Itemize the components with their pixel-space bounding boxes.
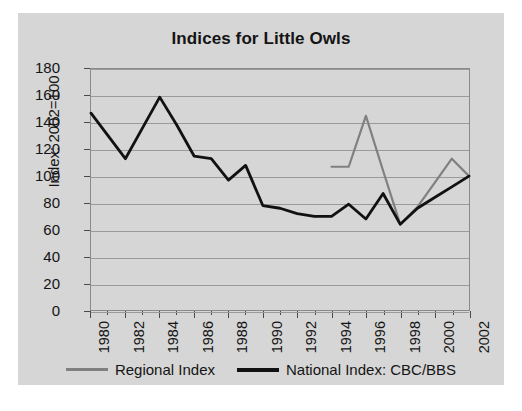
x-tick-label: 2000 bbox=[441, 321, 457, 353]
chart-figure: Indices for Little Owls Index: 2002=100 … bbox=[18, 13, 504, 385]
y-tick-label: 140 bbox=[0, 113, 60, 130]
legend-entry-national: National Index: CBC/BBS bbox=[237, 361, 456, 378]
y-tick-label: 20 bbox=[0, 275, 60, 292]
y-tick-label: 120 bbox=[0, 140, 60, 157]
legend-entry-regional: Regional Index bbox=[66, 361, 215, 378]
gridline bbox=[91, 312, 469, 313]
y-tick-label: 40 bbox=[0, 248, 60, 265]
x-tick-label: 1998 bbox=[407, 321, 423, 353]
x-tick-mark-major bbox=[470, 311, 471, 318]
x-tick-label: 1990 bbox=[269, 321, 285, 353]
plot-area bbox=[90, 68, 470, 311]
chart-legend: Regional Index National Index: CBC/BBS bbox=[18, 361, 504, 378]
y-tick-label: 180 bbox=[0, 59, 60, 76]
legend-swatch-regional bbox=[66, 368, 108, 371]
x-tick-label: 1986 bbox=[200, 321, 216, 353]
series-line-national-index-cbc-bbs bbox=[91, 97, 469, 224]
y-tick-label: 160 bbox=[0, 86, 60, 103]
x-tick-label: 1988 bbox=[234, 321, 250, 353]
x-tick-label: 2002 bbox=[476, 321, 492, 353]
x-tick-label: 1994 bbox=[338, 321, 354, 353]
x-tick-label: 1984 bbox=[165, 321, 181, 353]
y-tick-label: 60 bbox=[0, 221, 60, 238]
x-tick-label: 1996 bbox=[372, 321, 388, 353]
legend-label-regional: Regional Index bbox=[115, 361, 215, 378]
x-tick-label: 1980 bbox=[96, 321, 112, 353]
x-tick-label: 1982 bbox=[131, 321, 147, 353]
series-lines bbox=[91, 69, 469, 310]
legend-swatch-national bbox=[237, 368, 279, 372]
y-tick-label: 100 bbox=[0, 167, 60, 184]
y-tick-label: 0 bbox=[0, 302, 60, 319]
legend-label-national: National Index: CBC/BBS bbox=[286, 361, 456, 378]
chart-title: Indices for Little Owls bbox=[18, 29, 504, 49]
y-tick-label: 80 bbox=[0, 194, 60, 211]
x-tick-label: 1992 bbox=[303, 321, 319, 353]
